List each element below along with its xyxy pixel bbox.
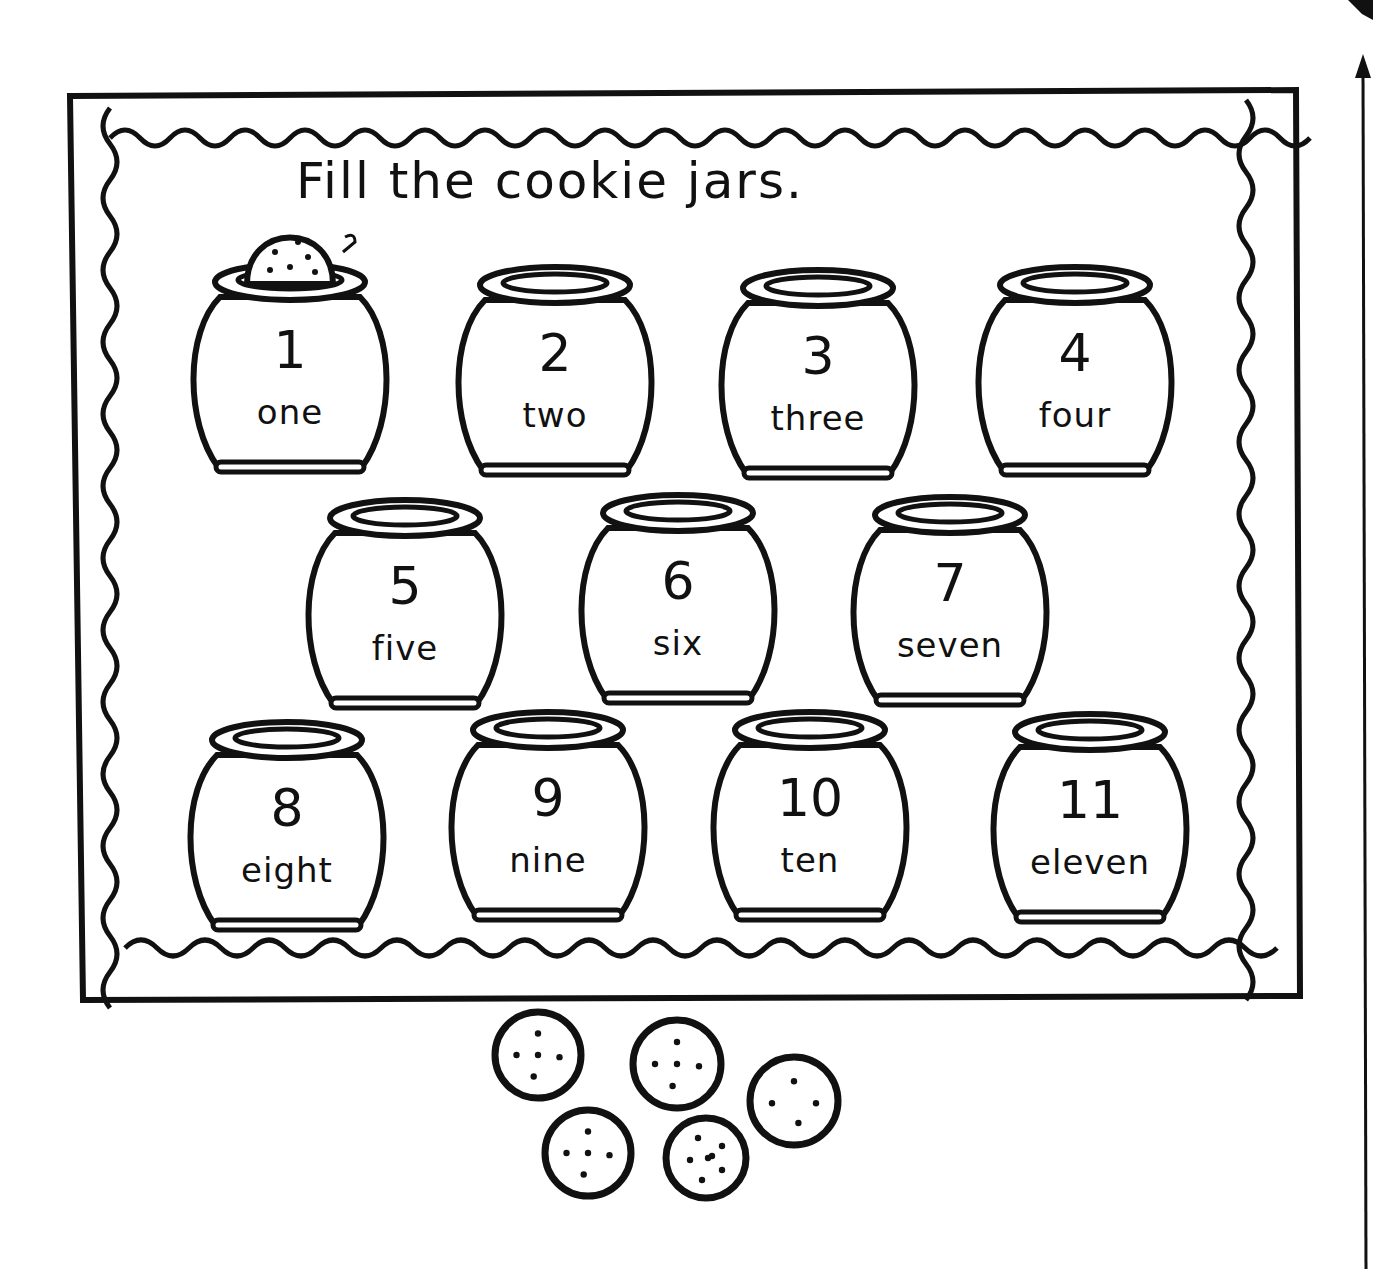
- jar-label: 3 three: [718, 268, 918, 478]
- cookie-icon: [633, 1020, 721, 1108]
- jar-label: 7 seven: [850, 495, 1050, 705]
- jar-label: 9 nine: [448, 710, 648, 920]
- page-title: Fill the cookie jars.: [296, 152, 804, 210]
- jar-label: 4 four: [975, 265, 1175, 475]
- cookie-icon: [750, 1057, 838, 1145]
- jar-label: 1 one: [190, 262, 390, 472]
- jar-number: 10: [710, 768, 910, 828]
- jar-number-word: four: [975, 395, 1175, 435]
- jar-number: 4: [975, 323, 1175, 383]
- worksheet: Fill the cookie jars. 1 one2 two3 three4…: [0, 0, 1373, 1269]
- wavy-border-top: [110, 130, 1310, 146]
- jar-number: 9: [448, 768, 648, 828]
- jar-number: 8: [187, 778, 387, 838]
- jar-label: 5 five: [305, 498, 505, 708]
- jar-number-word: eleven: [990, 842, 1190, 882]
- wavy-border-right: [1239, 100, 1253, 1000]
- jar-number-word: ten: [710, 840, 910, 880]
- jar-label: 6 six: [578, 493, 778, 703]
- jar-number: 1: [190, 320, 390, 380]
- cookie-icon: [666, 1118, 746, 1198]
- jar-number: 2: [455, 323, 655, 383]
- jar-number-word: nine: [448, 840, 648, 880]
- jar-number-word: one: [190, 392, 390, 432]
- jar-number: 5: [305, 556, 505, 616]
- jar-label: 10 ten: [710, 710, 910, 920]
- jar-label: 8 eight: [187, 720, 387, 930]
- wavy-border-bottom: [125, 940, 1277, 956]
- jar-number-word: five: [305, 628, 505, 668]
- jar-number: 7: [850, 553, 1050, 613]
- jar-label: 2 two: [455, 265, 655, 475]
- jar-number: 6: [578, 551, 778, 611]
- cookie-shapes: [495, 1012, 838, 1198]
- jar-number: 3: [718, 326, 918, 386]
- cookie-icon: [495, 1012, 581, 1098]
- margin-arrow-line: [1363, 70, 1366, 1269]
- curved-arrow-icon: [343, 235, 355, 252]
- arrow-up-icon: [1355, 54, 1371, 78]
- corner-mark-icon: [1348, 0, 1373, 20]
- jar-label: 11 eleven: [990, 712, 1190, 922]
- jar-number-word: two: [455, 395, 655, 435]
- jar-number: 11: [990, 770, 1190, 830]
- jar-number-word: seven: [850, 625, 1050, 665]
- cookie-icon: [545, 1110, 631, 1196]
- jar-number-word: eight: [187, 850, 387, 890]
- jar-number-word: six: [578, 623, 778, 663]
- wavy-border-left: [103, 108, 117, 1008]
- jar-number-word: three: [718, 398, 918, 438]
